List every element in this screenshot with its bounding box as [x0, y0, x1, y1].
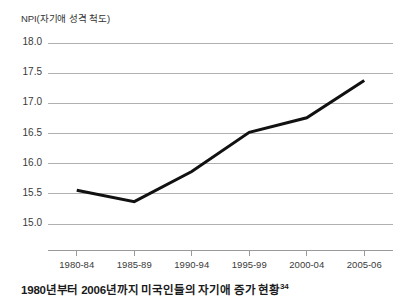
x-axis-ticks-group: [77, 250, 365, 256]
y-axis-tick-label: 16.0: [8, 157, 42, 168]
chart-svg: [0, 0, 409, 275]
x-axis-tick-label: 1980-84: [59, 259, 94, 270]
x-axis-tick-label: 2000-04: [289, 259, 324, 270]
caption-text: 1980년부터 2006년까지 미국인들의 자기애 증가 현황: [21, 284, 280, 296]
data-series-group: [77, 80, 365, 201]
x-axis-tick-label: 1985-89: [117, 259, 152, 270]
figure-caption: 1980년부터 2006년까지 미국인들의 자기애 증가 현황34: [21, 281, 288, 297]
y-axis-tick-label: 17.5: [8, 66, 42, 77]
gridlines-group: [48, 43, 393, 224]
y-axis-tick-label: 18.0: [8, 36, 42, 47]
x-axis-tick-label: 1995-99: [232, 259, 267, 270]
caption-note-marker: 34: [280, 282, 289, 291]
y-axis-tick-label: 16.5: [8, 127, 42, 138]
x-axis-tick-label: 1990-94: [174, 259, 209, 270]
y-axis-tick-label: 15.5: [8, 187, 42, 198]
x-axis-tick-label: 2005-06: [347, 259, 382, 270]
y-axis-tick-label: 17.0: [8, 96, 42, 107]
y-axis-tick-label: 15.0: [8, 217, 42, 228]
line-chart-plot-area: 18.017.517.016.516.015.515.0 1980-841985…: [0, 0, 409, 275]
data-line: [77, 80, 365, 201]
chart-figure: NPI(자기애 성격 척도) 18.017.517.016.516.015.51…: [0, 0, 409, 301]
